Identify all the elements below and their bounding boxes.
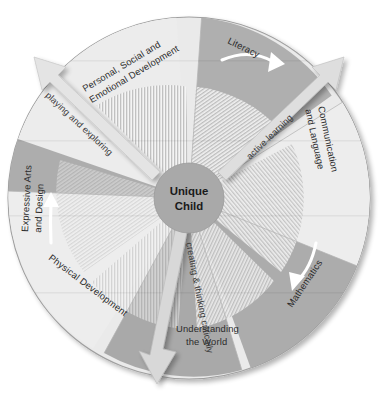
- center-label-line2: Child: [175, 200, 204, 212]
- center-unique-child[interactable]: Unique Child: [154, 163, 224, 233]
- expressive-arts-flow-arrow: [51, 203, 52, 243]
- eyfs-wheel-diagram: Unique Child Personal, Social and Emotio…: [0, 0, 388, 407]
- center-label-line1: Unique: [170, 185, 209, 197]
- center-circle: [154, 163, 224, 233]
